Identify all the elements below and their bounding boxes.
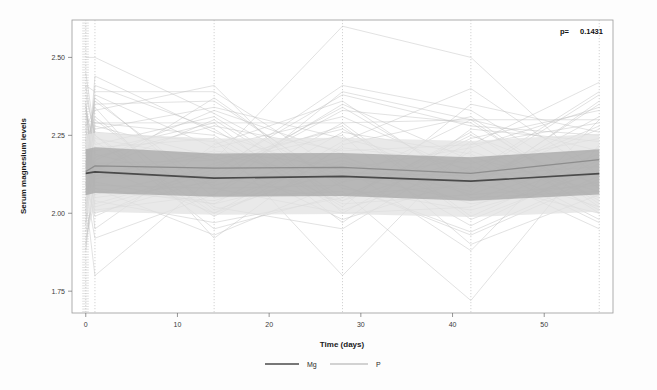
y-tick-label: 2.50 [51,54,65,61]
x-tick-label: 40 [449,321,457,328]
x-tick-label: 20 [265,321,273,328]
x-tick-label: 50 [540,321,548,328]
serum-magnesium-line-chart: 010203040501.752.002.252.50 Serum magnes… [0,0,657,390]
y-tick-label: 2.00 [51,210,65,217]
legend-label-mg: Mg [307,361,317,369]
pvalue-label: p= [560,27,570,36]
x-axis-title: Time (days) [320,340,365,349]
y-axis-title: Serum magnesium levels [19,117,28,214]
x-tick-label: 30 [357,321,365,328]
chart-figure: 010203040501.752.002.252.50 Serum magnes… [0,0,657,390]
legend-label-p: P [376,361,381,368]
x-tick-label: 10 [174,321,182,328]
x-tick-label: 0 [84,321,88,328]
y-tick-label: 1.75 [51,288,65,295]
pvalue-value: 0.1431 [580,27,603,36]
y-tick-label: 2.25 [51,132,65,139]
